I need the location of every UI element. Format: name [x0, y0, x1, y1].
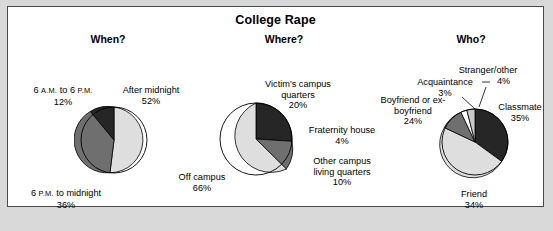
pie-label-friend-pct: 34%	[465, 200, 483, 210]
pie-label-after-midnight-text: After midnight	[123, 85, 180, 95]
pie-label-other-campus: Other campus living quarters 10%	[313, 156, 371, 188]
pie-label-evening-text: 6 P.M. to midnight	[31, 188, 101, 198]
leader-acquaintance	[462, 97, 475, 109]
pie-label-victim-quarters-pct: 20%	[289, 100, 307, 110]
pie-label-boyfriend: Boyfriend or ex- boyfriend 24%	[381, 95, 446, 127]
pie-label-fraternity-house-text: Fraternity house	[309, 125, 375, 135]
pie-label-victim-quarters: Victim's campus quarters 20%	[265, 79, 331, 111]
pie-label-stranger-other-text: Stranger/other	[459, 65, 518, 75]
pie-label-classmate-pct: 35%	[511, 113, 529, 123]
pie-label-daytime-pct: 12%	[54, 97, 72, 107]
pie-label-acquaintance-text: Acquaintance	[417, 77, 473, 87]
pie-label-fraternity-house: Fraternity house 4%	[309, 125, 375, 146]
pie-label-classmate: Classmate 35%	[498, 102, 541, 123]
pie-label-after-midnight: After midnight 52%	[123, 85, 180, 106]
pie-label-other-campus-l2: living quarters	[313, 167, 370, 177]
pie-label-victim-quarters-l2: quarters	[281, 90, 315, 100]
pie-label-stranger-other: Stranger/other	[459, 65, 518, 76]
pie-label-fraternity-house-pct: 4%	[335, 136, 348, 146]
pie-chart-when	[74, 100, 154, 180]
pie-label-stranger-other-pct: 4%	[497, 76, 510, 86]
chart-figure: College Rape When? After midnight 52% 6 …	[7, 6, 544, 207]
page-title: College Rape	[8, 13, 543, 27]
panel-title-where: Where?	[265, 33, 304, 45]
pie-label-friend: Friend 34%	[461, 189, 487, 210]
panel-title-when: When?	[91, 33, 126, 45]
pie-label-evening: 6 P.M. to midnight 36%	[31, 188, 101, 210]
pie-label-off-campus: Off campus 66%	[179, 172, 226, 193]
pie-label-daytime-text: 6 A.M. to 6 P.M.	[33, 85, 92, 95]
pie-label-after-midnight-pct: 52%	[142, 96, 160, 106]
pie-label-victim-quarters-l1: Victim's campus	[265, 79, 331, 89]
pie-label-other-campus-pct: 10%	[333, 177, 351, 187]
pie-label-other-campus-l1: Other campus	[313, 156, 371, 166]
pie-label-off-campus-text: Off campus	[179, 172, 226, 182]
pie-label-classmate-text: Classmate	[498, 102, 541, 112]
pie-label-daytime: 6 A.M. to 6 P.M. 12%	[33, 85, 92, 107]
pie-label-friend-text: Friend	[461, 189, 487, 199]
pie-label-boyfriend-pct: 24%	[404, 116, 422, 126]
pie-label-boyfriend-l1: Boyfriend or ex-	[381, 95, 446, 105]
panel-title-who: Who?	[456, 33, 485, 45]
pie-label-off-campus-pct: 66%	[193, 183, 211, 193]
pie-label-stranger-other-pct-wrap: 4%	[497, 76, 510, 87]
pie-label-evening-pct: 36%	[57, 200, 75, 210]
pie-label-boyfriend-l2: boyfriend	[394, 106, 432, 116]
leader-stranger-other	[479, 87, 486, 107]
